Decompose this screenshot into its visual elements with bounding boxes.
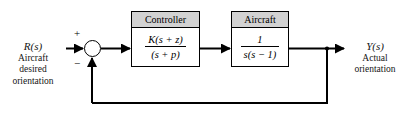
summing-junction: [84, 40, 101, 57]
input-description-line-2: desired: [2, 64, 64, 76]
controller-numerator: K(s + z): [145, 33, 186, 47]
aircraft-fraction: 1 s(s − 1): [241, 33, 280, 62]
controller-fraction: K(s + z) (s + p): [145, 33, 186, 62]
plus-sign: +: [74, 28, 80, 38]
output-symbol: Y(s): [346, 41, 404, 53]
input-description-line-1: Aircraft: [2, 53, 64, 65]
aircraft-numerator: 1: [241, 33, 280, 47]
output-description-line-2: orientation: [346, 64, 404, 76]
input-description-line-3: orientation: [2, 76, 64, 88]
aircraft-transfer-function: 1 s(s − 1): [232, 28, 288, 66]
aircraft-block-title: Aircraft: [232, 12, 288, 28]
output-signal-label: Y(s) Actual orientation: [346, 41, 404, 76]
controller-transfer-function: K(s + z) (s + p): [132, 28, 199, 66]
controller-denominator: (s + p): [145, 46, 186, 61]
controller-block: Controller K(s + z) (s + p): [131, 11, 200, 67]
aircraft-denominator: s(s − 1): [241, 46, 280, 61]
minus-sign: −: [74, 58, 80, 68]
output-description-line-1: Actual: [346, 53, 404, 65]
input-signal-label: R(s) Aircraft desired orientation: [2, 41, 64, 87]
input-symbol: R(s): [2, 41, 64, 53]
controller-block-title: Controller: [132, 12, 199, 28]
block-diagram: R(s) Aircraft desired orientation + − Co…: [0, 0, 405, 117]
aircraft-block: Aircraft 1 s(s − 1): [231, 11, 289, 67]
